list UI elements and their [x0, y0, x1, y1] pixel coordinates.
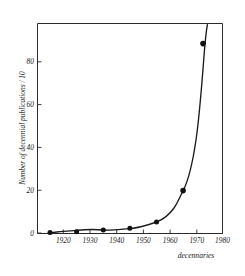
y-tick-label-20: 20 — [27, 186, 35, 195]
x-tick-label-1920: 1920 — [56, 236, 71, 245]
y-tick-label-80: 80 — [27, 57, 35, 66]
x-tick-label-1930: 1930 — [83, 236, 98, 245]
x-tick-label-1940: 1940 — [109, 236, 124, 245]
x-tick-label-1970: 1970 — [189, 236, 204, 245]
y-tick-label-0: 0 — [30, 229, 34, 238]
data-point-1925 — [74, 229, 79, 234]
data-point-1975 — [200, 41, 206, 47]
y-tick-label-40: 40 — [27, 143, 35, 152]
figure-container: 0 20 40 60 80 1920 1930 1940 1950 1960 1… — [0, 0, 245, 276]
x-tick-label-1950: 1950 — [136, 236, 151, 245]
chart-background — [0, 0, 245, 276]
data-point-1965 — [180, 188, 186, 194]
data-point-1915 — [48, 230, 53, 235]
x-tick-label-1980: 1980 — [215, 236, 230, 245]
y-tick-label-60: 60 — [27, 100, 35, 109]
publications-growth-chart: 0 20 40 60 80 1920 1930 1940 1950 1960 1… — [0, 0, 245, 276]
y-axis-title: Number of decennial publications / 10 — [18, 71, 27, 186]
data-point-1945 — [127, 226, 132, 231]
x-tick-label-1960: 1960 — [163, 236, 178, 245]
x-axis-title: decennaries — [178, 251, 215, 260]
data-point-1955 — [154, 219, 159, 224]
x-axis-tick-labels: 1920 1930 1940 1950 1960 1970 1980 — [56, 236, 230, 245]
data-point-1935 — [101, 228, 106, 233]
